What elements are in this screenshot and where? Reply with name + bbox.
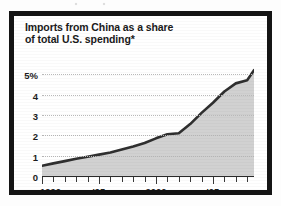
chart-frame-border: Imports from China as a share of total U… <box>9 11 272 195</box>
x-axis-tick <box>88 177 89 182</box>
x-axis-tick <box>190 177 191 182</box>
y-axis-tick-label: 3 <box>33 110 38 121</box>
x-axis-tick <box>76 177 77 182</box>
x-axis-tick-label: 1990 <box>40 186 61 190</box>
x-axis-tick <box>202 177 203 182</box>
x-axis-tick <box>99 177 100 184</box>
x-axis-tick <box>110 177 111 182</box>
x-axis <box>42 176 254 186</box>
x-axis-tick <box>65 177 66 182</box>
chart-title-line-1: Imports from China as a share <box>25 22 225 34</box>
x-axis-tick <box>145 177 146 182</box>
y-axis-tick-label: 1 <box>33 151 38 162</box>
x-axis-tick-label: '05 <box>207 186 220 190</box>
clipping-page: Imports from China as a share of total U… <box>0 0 281 206</box>
x-axis-tick <box>247 177 248 182</box>
y-axis-tick-label: 4 <box>33 90 38 101</box>
x-axis-tick <box>122 177 123 182</box>
x-axis-tick <box>213 177 214 184</box>
chart-title-line-2: of total U.S. spending* <box>25 34 225 46</box>
x-axis-tick-label: '95 <box>93 186 106 190</box>
x-axis-tick <box>236 177 237 182</box>
x-axis-tick <box>179 177 180 182</box>
chart-title: Imports from China as a share of total U… <box>25 22 225 45</box>
gridline-y-3: 3 <box>42 115 254 116</box>
gridline-y-2: 2 <box>42 135 254 136</box>
x-axis-tick <box>42 177 43 184</box>
x-axis-tick <box>224 177 225 182</box>
y-axis-tick-label: 5% <box>24 70 38 81</box>
area-series <box>42 62 254 176</box>
x-axis-tick <box>156 177 157 184</box>
plot-area: 5%43210 <box>42 62 254 176</box>
x-axis-tick <box>167 177 168 182</box>
x-axis-labels: 1990'952000'05 <box>42 186 254 190</box>
x-axis-tick <box>53 177 54 182</box>
chart-card: Imports from China as a share of total U… <box>14 16 267 190</box>
gridline-y-4: 4 <box>42 95 254 96</box>
y-axis-tick-label: 0 <box>33 172 38 183</box>
gridline-y-1: 1 <box>42 156 254 157</box>
x-axis-tick <box>133 177 134 182</box>
y-axis-tick-label: 2 <box>33 131 38 142</box>
scan-artifact-marks <box>70 1 190 8</box>
gridline-y-5pct: 5% <box>42 74 254 75</box>
x-axis-tick-label: 2000 <box>145 186 166 190</box>
